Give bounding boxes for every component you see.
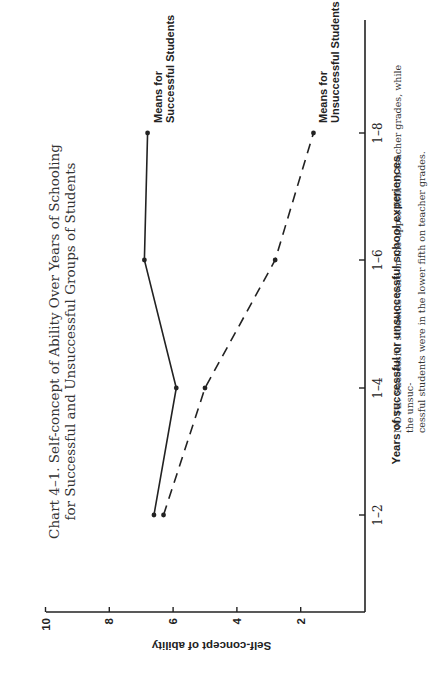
- data-point-marker: [203, 386, 208, 391]
- data-point-marker: [152, 513, 157, 518]
- x-tick-label: 1–4: [371, 377, 385, 399]
- y-tick-label: 2: [295, 618, 307, 624]
- successful-students-line: [144, 133, 176, 515]
- unsuccessful-series-label: Means for: [317, 70, 329, 123]
- successful-series-label: Means for: [152, 70, 164, 123]
- data-point-marker: [145, 131, 150, 136]
- line-chart: 108642Self-concept of ability1–21–41–61–…: [0, 0, 432, 683]
- successful-series-label: Successful Students: [164, 15, 176, 123]
- data-point-marker: [161, 513, 166, 518]
- note-prefix: NOTE:: [392, 398, 403, 433]
- y-tick-label: 10: [40, 618, 52, 631]
- note-text-2: cessful students were in the lower fifth…: [416, 151, 427, 433]
- y-tick-label: 6: [167, 618, 179, 624]
- note-text-1: Successful students were in the upper fi…: [392, 65, 415, 433]
- unsuccessful-students-line: [164, 133, 314, 515]
- y-tick-label: 8: [103, 617, 115, 624]
- data-point-marker: [142, 258, 147, 263]
- x-tick-label: 1–6: [371, 249, 385, 270]
- chart-note: NOTE: Successful students were in the up…: [392, 53, 428, 433]
- data-point-marker: [311, 131, 316, 136]
- unsuccessful-series-label: Unsuccessful Students: [329, 1, 341, 123]
- x-tick-label: 1–2: [371, 504, 385, 525]
- data-point-marker: [174, 386, 179, 391]
- y-tick-label: 4: [231, 617, 243, 624]
- y-axis-title: Self-concept of ability: [151, 640, 271, 652]
- x-tick-label: 1–8: [371, 122, 385, 143]
- data-point-marker: [273, 258, 278, 263]
- chart-page: Chart 4–1. Self-concept of Ability Over …: [0, 0, 432, 683]
